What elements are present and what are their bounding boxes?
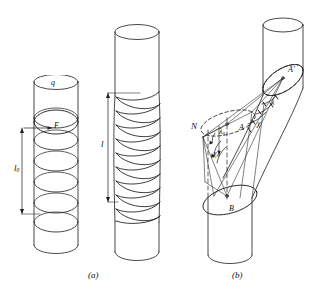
- label-l: l: [101, 140, 104, 149]
- label-N: N: [191, 122, 197, 131]
- construction-lines: [203, 78, 283, 198]
- untwisted-cylinder-body: [34, 75, 78, 254]
- label-F: F: [54, 122, 59, 130]
- helical-twist-pattern: [116, 92, 160, 223]
- label-chi0: χ0: [213, 150, 219, 159]
- line-art-drawing: [0, 0, 327, 296]
- label-q: q: [51, 79, 55, 87]
- label-l0: l0: [14, 164, 19, 174]
- label-A-prime: A′: [288, 66, 295, 74]
- ellipse-B: [199, 179, 260, 220]
- caption-b: (b): [232, 270, 243, 280]
- label-lambda0: λ0: [219, 128, 225, 137]
- label-B: B: [229, 205, 234, 213]
- panel-b-upper-tube: [263, 18, 303, 95]
- ellipse-A-prime: [258, 58, 309, 102]
- l0-dimension-bar: [20, 128, 40, 214]
- panel-b-bend-body: [223, 88, 303, 198]
- twisted-cylinder-body: [114, 25, 160, 261]
- label-A: A: [239, 124, 244, 132]
- figure-canvas: q F l0 l A′ N A λ0 χ0 λ χ B (a) (b): [0, 0, 327, 296]
- label-chi: χ: [257, 120, 261, 128]
- l-dimension-bar: [106, 93, 140, 202]
- label-lambda: λ: [271, 99, 274, 107]
- caption-a: (a): [88, 270, 99, 280]
